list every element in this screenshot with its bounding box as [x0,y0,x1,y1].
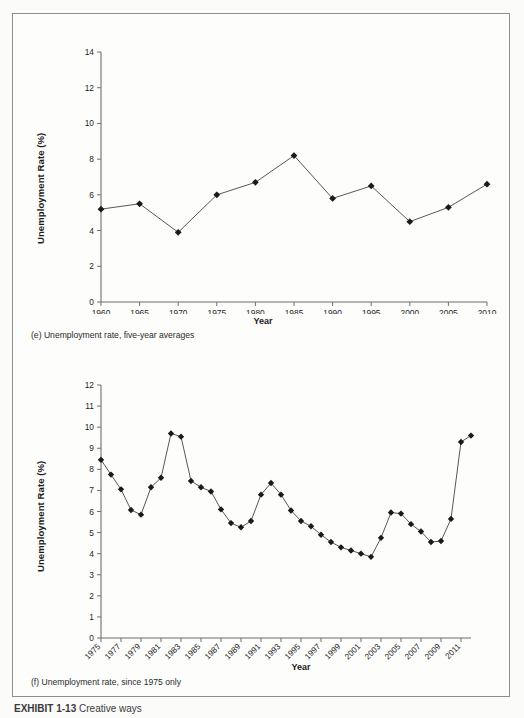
chart-e-series-line [101,156,487,233]
chart-f-data-point [228,520,234,526]
chart-e-xtick: 2005 [439,308,458,314]
chart-f-data-point [338,544,344,550]
chart-f-data-point [108,471,114,477]
chart-e-data-point [484,181,491,188]
chart-f-xtick: 1999 [323,642,343,660]
chart-f-xtick: 2009 [423,642,443,660]
chart-f-data-point [128,507,134,513]
chart-f-xtick: 1983 [163,642,183,660]
chart-e-ytick: 0 [89,297,94,307]
chart-f-xtick: 2007 [403,642,423,660]
chart-f-xtick: 2005 [383,642,403,660]
chart-f-data-point [328,539,334,545]
chart-f-ytick: 8 [89,464,94,474]
chart-e-xtick: 1995 [362,308,381,314]
page-root: 0246810121419601965197019751980198519901… [0,0,524,718]
chart-f-series-line [101,433,471,556]
chart-f-data-point [448,516,454,522]
chart-f-data-point [248,518,254,524]
chart-e-ytick: 6 [89,190,94,200]
chart-f-ytick: 3 [89,570,94,580]
chart-f-data-point [138,511,144,517]
chart-f-data-point [438,538,444,544]
exhibit-caption-rest: Creative ways [79,703,142,714]
chart-f-xtick: 1979 [123,642,143,660]
chart-f-ytick: 0 [89,633,94,643]
chart-e-xtick: 1980 [246,308,265,314]
chart-f-xtick: 1977 [103,642,123,660]
chart-e-caption: (e) Unemployment rate, five-year average… [31,330,194,340]
chart-f-ytick: 4 [89,549,94,559]
chart-f-ytick: 12 [85,380,95,390]
chart-f-xtick: 1987 [203,642,223,660]
chart-e-ytick: 10 [85,118,95,128]
chart-f-ytick: 9 [89,443,94,453]
chart-panel-f: 0123456789101112197519771979198119831985… [13,350,511,695]
exhibit-caption-bold: EXHIBIT 1-13 [14,703,76,714]
chart-f-xtick: 1981 [143,642,163,660]
chart-e-y-axis-label: Unemployment Rate (%) [35,133,46,244]
chart-e-ytick: 14 [85,47,95,57]
chart-e-xtick: 1990 [323,308,342,314]
chart-e-xtick: 1970 [169,308,188,314]
chart-f-xtick: 1985 [183,642,203,660]
chart-f-xtick: 1995 [283,642,303,660]
chart-f-data-point [168,430,174,436]
chart-e-data-point [445,204,452,211]
chart-f-ytick: 6 [89,507,94,517]
chart-f-data-point [358,550,364,556]
figure-frame: 0246810121419601965197019751980198519901… [12,13,510,697]
chart-e-plot: 0246810121419601965197019751980198519901… [13,14,511,314]
chart-f-xtick: 2001 [343,642,363,660]
chart-f-caption: (f) Unemployment rate, since 1975 only [31,677,181,687]
chart-f-ytick: 10 [85,422,95,432]
chart-f-xtick: 1997 [303,642,323,660]
chart-e-ytick: 8 [89,154,94,164]
chart-f-data-point [178,433,184,439]
chart-e-xtick: 1975 [207,308,226,314]
chart-f-x-axis-label: Year [241,662,361,672]
chart-f-data-point [468,432,474,438]
chart-f-data-point [378,535,384,541]
chart-f-data-point [458,439,464,445]
chart-f-data-point [188,478,194,484]
exhibit-caption: EXHIBIT 1-13 Creative ways [14,703,514,718]
chart-f-data-point [208,488,214,494]
chart-f-data-point [98,457,104,463]
chart-f-ytick: 11 [85,401,94,411]
chart-e-ytick: 4 [89,226,94,236]
chart-f-xtick: 2011 [444,642,463,660]
chart-e-ytick: 2 [89,261,94,271]
chart-f-y-axis-label: Unemployment Rate (%) [35,461,46,572]
chart-panel-e: 0246810121419601965197019751980198519901… [13,14,511,344]
chart-e-data-point [252,179,259,186]
chart-e-xtick: 1985 [285,308,304,314]
chart-f-plot: 0123456789101112197519771979198119831985… [13,350,511,660]
chart-f-xtick: 1993 [263,642,283,660]
chart-f-ytick: 5 [89,528,94,538]
chart-f-data-point [388,509,394,515]
chart-e-xtick: 1960 [92,308,111,314]
chart-f-data-point [118,486,124,492]
chart-e-x-axis-label: Year [203,316,323,326]
chart-f-ytick: 7 [89,485,94,495]
chart-f-data-point [368,554,374,560]
chart-f-data-point [218,506,224,512]
chart-f-xtick: 2003 [363,642,383,660]
chart-e-xtick: 2000 [400,308,419,314]
chart-f-data-point [238,524,244,530]
chart-e-data-point [136,200,143,207]
chart-f-ytick: 1 [89,612,94,622]
chart-f-data-point [348,547,354,553]
chart-f-xtick: 1991 [243,642,263,660]
chart-e-xtick: 2010 [478,308,497,314]
chart-e-data-point [98,206,105,213]
chart-f-data-point [198,484,204,490]
chart-e-ytick: 12 [85,83,95,93]
chart-f-xtick: 1989 [223,642,243,660]
chart-f-ytick: 2 [89,591,94,601]
chart-f-xtick: 1975 [83,642,103,660]
chart-e-xtick: 1965 [130,308,149,314]
